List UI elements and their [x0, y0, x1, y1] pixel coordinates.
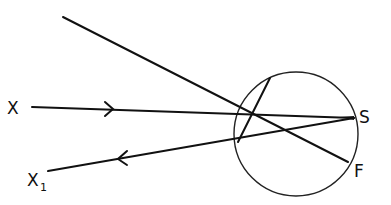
label-x1-subscript: 1: [40, 181, 47, 194]
label-s: S: [359, 107, 370, 127]
oblique-line: [63, 17, 348, 162]
label-f: F: [354, 161, 364, 181]
ray-diagram: X X 1 S F: [0, 0, 391, 205]
circle: [234, 72, 358, 196]
label-x: X: [7, 98, 19, 118]
incoming-ray: [32, 107, 354, 118]
label-x1: X: [27, 170, 39, 190]
reflected-ray: [48, 118, 354, 171]
